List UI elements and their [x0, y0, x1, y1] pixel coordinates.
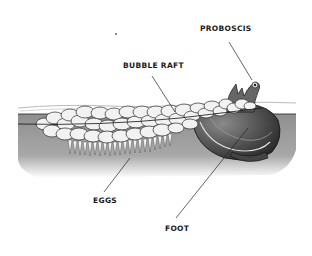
- snail-illustration: [0, 0, 312, 256]
- diagram-canvas: PROBOSCIS BUBBLE RAFT EGGS FOOT: [0, 0, 312, 256]
- stray-dot: [115, 33, 117, 35]
- bubble-raft-label: BUBBLE RAFT: [123, 62, 184, 70]
- proboscis-leader: [229, 42, 252, 80]
- eggs-label: EGGS: [93, 197, 117, 205]
- proboscis-label: PROBOSCIS: [200, 25, 252, 33]
- foot-label: FOOT: [165, 225, 189, 233]
